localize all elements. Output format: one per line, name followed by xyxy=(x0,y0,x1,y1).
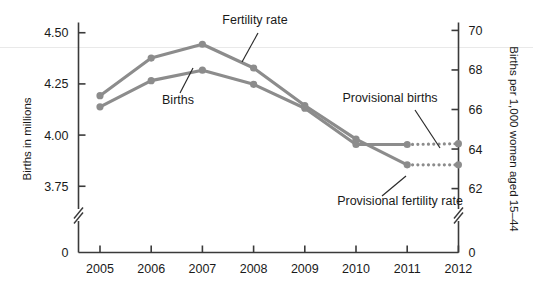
x-axis-tick-label: 2006 xyxy=(137,262,165,276)
chart-canvas: 4.504.254.003.75070686664620200520062007… xyxy=(0,0,533,289)
left-axis-tick-label: 4.25 xyxy=(44,77,68,91)
data-point-births-2008 xyxy=(250,81,257,88)
data-point-fertility-rate-2009 xyxy=(301,102,308,109)
series-annotation-fertility-rate: Fertility rate xyxy=(222,13,287,27)
data-point-births-2006 xyxy=(148,77,155,84)
right-axis-tick-label: 62 xyxy=(469,182,483,196)
data-point-fertility-rate-2008 xyxy=(250,64,257,71)
right-axis-title: Births per 1,000 women aged 15–44 xyxy=(508,46,520,232)
x-axis-tick-label: 2007 xyxy=(188,262,216,276)
x-axis-tick-label: 2012 xyxy=(444,262,472,276)
left-axis-tick-label: 4.50 xyxy=(44,26,68,40)
chart-background xyxy=(0,0,533,289)
left-axis-tick-label: 3.75 xyxy=(44,180,68,194)
data-point-births-2005 xyxy=(96,103,103,110)
line-chart: 4.504.254.003.75070686664620200520062007… xyxy=(0,0,533,289)
left-axis-tick-label: 0 xyxy=(62,246,69,260)
x-axis-tick-label: 2011 xyxy=(394,262,421,276)
x-axis-tick-label: 2009 xyxy=(291,262,319,276)
x-axis-tick-label: 2010 xyxy=(342,262,370,276)
left-axis-tick-label: 4.00 xyxy=(44,129,68,143)
data-point-fertility-rate-2005 xyxy=(96,92,103,99)
data-point-fertility-rate-2006 xyxy=(148,54,155,61)
series-annotation-provisional-fertility-rate: Provisional fertility rate xyxy=(337,194,463,208)
data-point-births-2007 xyxy=(199,67,206,74)
right-axis-tick-label: 0 xyxy=(469,246,476,260)
right-axis-tick-label: 66 xyxy=(469,103,483,117)
right-axis-tick-label: 64 xyxy=(469,143,483,157)
series-annotation-provisional-births: Provisional births xyxy=(342,91,437,105)
right-axis-tick-label: 68 xyxy=(469,63,483,77)
right-axis-tick-label: 70 xyxy=(469,24,483,38)
x-axis-tick-label: 2008 xyxy=(240,262,268,276)
data-point-fertility-rate-2007 xyxy=(199,41,206,48)
left-axis-title: Births in millions xyxy=(21,97,33,180)
series-annotation-births: Births xyxy=(162,93,194,107)
x-axis-tick-label: 2005 xyxy=(86,262,114,276)
data-point-fertility-rate-2010 xyxy=(352,136,359,143)
